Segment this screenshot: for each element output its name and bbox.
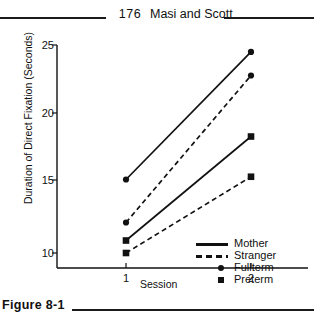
- data-point-marker: [248, 133, 255, 140]
- series-line: [126, 137, 251, 241]
- data-point-marker: [248, 72, 254, 78]
- square-marker-icon: [196, 274, 230, 286]
- figure-number: Figure 8-1: [2, 298, 65, 312]
- data-point-marker: [123, 250, 130, 257]
- series-fullterm-mother: [123, 49, 254, 183]
- series-line: [126, 52, 251, 180]
- y-tick-label: 20: [30, 107, 54, 119]
- data-point-marker: [123, 176, 129, 182]
- header-rule-left: [0, 17, 106, 19]
- header-rule-right: [224, 17, 314, 19]
- y-tick-label: 25: [30, 39, 54, 51]
- page-folio: 176: [110, 7, 150, 21]
- legend-label: Preterm: [234, 273, 273, 285]
- data-point-marker: [123, 219, 129, 225]
- x-tick-label: 1: [114, 272, 138, 284]
- y-tick-label: 15: [30, 174, 54, 186]
- legend-label: Mother: [234, 237, 268, 249]
- caption-rule: [72, 309, 314, 311]
- figure: Duration of Direct Fixation (Seconds) 25…: [0, 28, 314, 314]
- chart-plot-area: Duration of Direct Fixation (Seconds) 25…: [0, 28, 314, 286]
- series-fullterm-stranger: [123, 72, 254, 225]
- solid-line-icon: [196, 238, 230, 250]
- data-point-marker: [123, 237, 130, 244]
- data-point-marker: [248, 173, 255, 180]
- circle-marker-icon: [196, 262, 230, 274]
- running-head: 176 Masi and Scott: [0, 0, 314, 28]
- dashed-line-icon: [196, 250, 230, 262]
- legend-label: Fullterm: [234, 261, 274, 273]
- page: 176 Masi and Scott Duration of Direct Fi…: [0, 0, 314, 314]
- y-tick-label: 10: [30, 247, 54, 259]
- legend-item-preterm: Preterm: [196, 274, 306, 286]
- figure-caption: Figure 8-1: [0, 296, 314, 314]
- data-point-marker: [248, 49, 254, 55]
- running-head-title: Masi and Scott: [150, 7, 226, 21]
- legend-label: Stranger: [234, 249, 276, 261]
- chart-legend: Mother Stranger Fullterm Preterm: [196, 238, 306, 286]
- series-line: [126, 76, 251, 223]
